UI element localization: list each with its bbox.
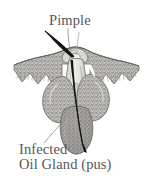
figure-container: Pimple Infected Oil Gland (pus) (0, 0, 151, 183)
label-infected: Infected (19, 142, 67, 157)
label-pimple: Pimple (49, 13, 91, 28)
label-oil-gland: Oil Gland (pus) (19, 157, 112, 172)
